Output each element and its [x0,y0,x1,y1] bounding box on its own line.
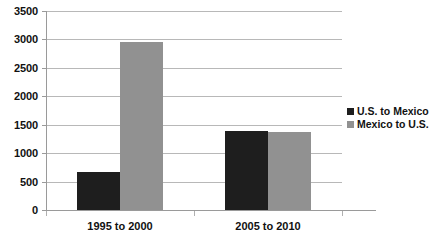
y-axis-line [46,11,47,211]
legend-item: U.S. to Mexico [347,105,440,118]
y-axis-tick-label: 1000 [0,148,38,159]
gridline [46,39,342,40]
legend-label: U.S. to Mexico [357,106,429,117]
y-axis-tick-label: 3000 [0,34,38,45]
x-axis-category-label: 2005 to 2010 [208,220,328,232]
y-axis-tick-label: 2000 [0,91,38,102]
bar [225,131,268,210]
x-axis-tick-mark [342,211,343,216]
gridline [46,96,342,97]
y-axis-tick-label: 2500 [0,62,38,73]
legend-swatch-icon [347,108,354,115]
gridline [46,11,342,12]
legend-swatch-icon [347,121,354,128]
gridline [46,68,342,69]
bar [268,132,311,210]
y-axis-tick-label: 1500 [0,119,38,130]
y-axis-tick-label: 500 [0,176,38,187]
y-axis-tick-label: 0 [0,205,38,216]
x-axis-tick-mark [46,211,47,216]
y-axis-tick-label: 3500 [0,6,38,17]
bar [120,42,163,210]
legend-label: Mexico to U.S. [357,119,429,130]
x-axis-tick-mark [194,211,195,216]
chart-legend: U.S. to MexicoMexico to U.S. [347,105,440,131]
y-axis-tick-labels: 3500300025002000150010005000 [0,0,38,243]
x-axis-line [46,210,376,211]
bar [77,172,120,210]
legend-item: Mexico to U.S. [347,118,440,131]
gridline [46,125,342,126]
x-axis-category-label: 1995 to 2000 [60,220,180,232]
plot-area [46,11,342,210]
bar-chart: 3500300025002000150010005000 1995 to 200… [0,0,440,243]
